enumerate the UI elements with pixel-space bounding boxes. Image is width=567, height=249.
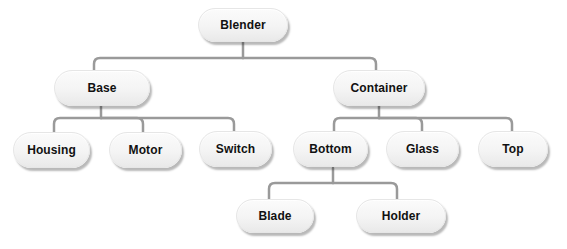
connector-container-bottom bbox=[334, 118, 379, 132]
node-blender: Blender bbox=[198, 8, 288, 42]
node-label: Container bbox=[351, 81, 408, 95]
node-base: Base bbox=[54, 70, 150, 106]
node-label: Base bbox=[87, 81, 116, 95]
node-blade: Blade bbox=[236, 199, 314, 233]
node-switch: Switch bbox=[199, 131, 272, 167]
node-label: Top bbox=[502, 142, 523, 156]
connector-base-housing bbox=[54, 118, 101, 132]
node-label: Glass bbox=[406, 142, 439, 156]
node-label: Blade bbox=[258, 209, 291, 223]
connector-container-top bbox=[379, 118, 512, 132]
node-glass: Glass bbox=[386, 131, 459, 167]
node-label: Bottom bbox=[309, 142, 352, 156]
node-label: Blender bbox=[220, 18, 265, 32]
node-label: Motor bbox=[129, 143, 163, 157]
connector-bottom-holder bbox=[333, 183, 397, 199]
node-label: Holder bbox=[382, 209, 421, 223]
tree-diagram: Blender Base Container Housing Motor Swi… bbox=[0, 0, 567, 249]
node-motor: Motor bbox=[109, 132, 182, 168]
node-holder: Holder bbox=[356, 199, 446, 233]
node-housing: Housing bbox=[13, 132, 90, 168]
connector-bottom-blade bbox=[269, 183, 333, 199]
node-label: Switch bbox=[216, 142, 255, 156]
connector-base-switch bbox=[101, 118, 234, 132]
node-top: Top bbox=[478, 131, 548, 167]
node-label: Housing bbox=[27, 143, 76, 157]
connector-base-motor bbox=[101, 118, 143, 132]
connector-container-glass bbox=[379, 118, 422, 132]
node-bottom: Bottom bbox=[293, 131, 368, 167]
node-container: Container bbox=[333, 70, 425, 106]
